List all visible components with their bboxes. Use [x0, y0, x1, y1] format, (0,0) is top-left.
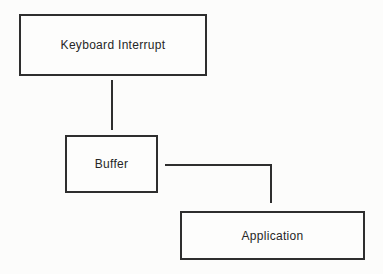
node-buffer-label: Buffer: [95, 157, 129, 171]
node-application-label: Application: [241, 229, 303, 243]
node-keyboard-interrupt-label: Keyboard Interrupt: [61, 38, 166, 52]
node-keyboard-interrupt: Keyboard Interrupt: [19, 14, 207, 76]
diagram-canvas: Keyboard Interrupt Buffer Application: [0, 0, 383, 274]
node-buffer: Buffer: [65, 135, 158, 193]
connector-buffer-to-application-horizontal: [165, 164, 272, 166]
connector-keyboard-interrupt-to-buffer: [111, 80, 113, 130]
connector-buffer-to-application-vertical: [270, 164, 272, 203]
node-application: Application: [180, 211, 365, 260]
